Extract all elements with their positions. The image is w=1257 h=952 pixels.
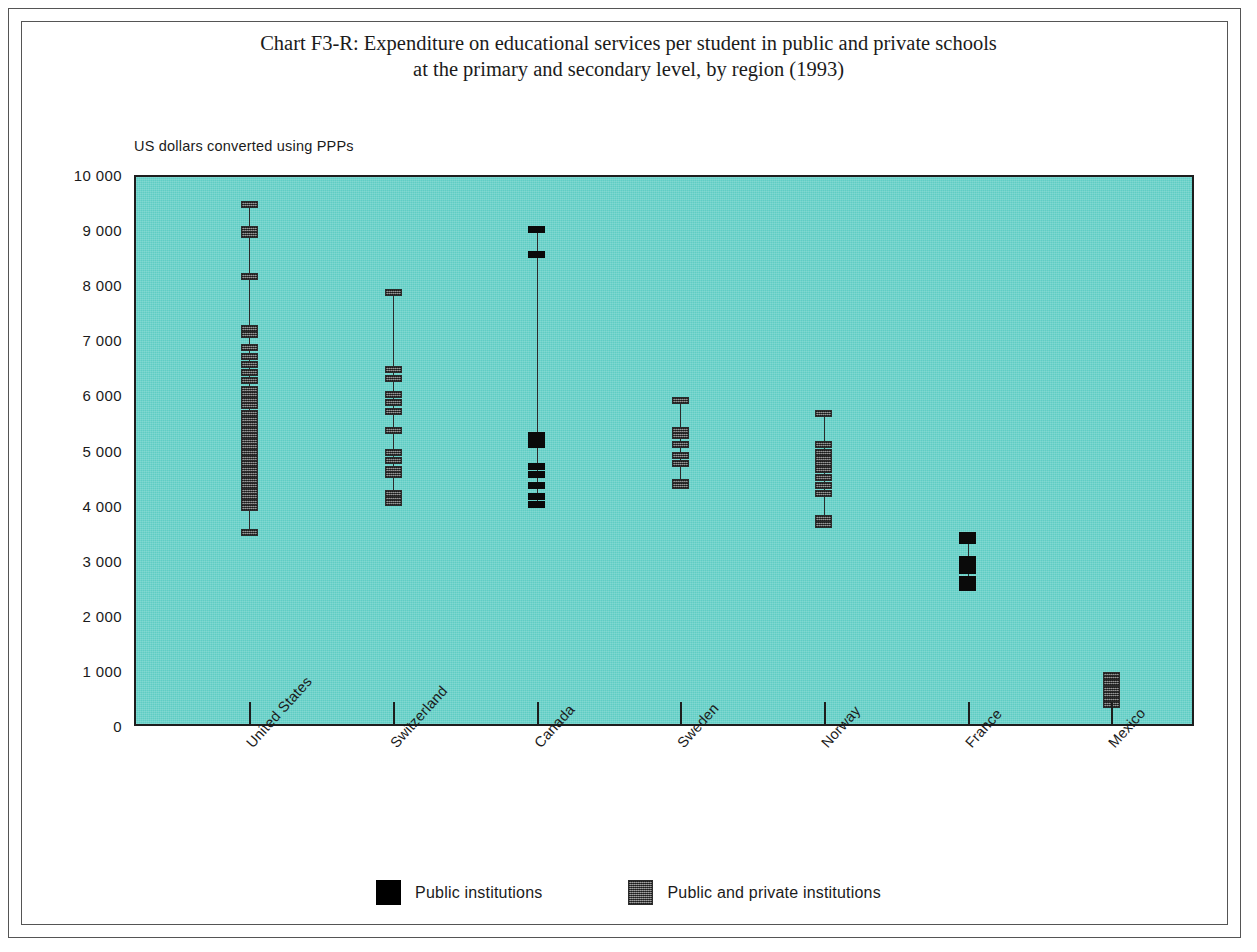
data-marker xyxy=(385,471,402,478)
legend-label-public: Public institutions xyxy=(415,884,542,902)
legend-swatch-mixed xyxy=(628,880,653,905)
data-marker xyxy=(241,344,258,351)
plot-area xyxy=(134,175,1194,726)
data-marker xyxy=(815,410,832,417)
data-marker xyxy=(385,449,402,456)
data-marker xyxy=(528,501,545,508)
data-marker xyxy=(815,490,832,497)
data-marker xyxy=(672,397,689,404)
data-marker xyxy=(815,521,832,528)
data-marker xyxy=(385,457,402,464)
data-marker xyxy=(241,377,258,384)
x-tick-mark xyxy=(968,702,970,724)
y-tick-label: 9 000 xyxy=(4,222,122,239)
y-tick-label: 10 000 xyxy=(4,167,122,184)
data-marker xyxy=(241,369,258,376)
data-marker xyxy=(528,482,545,489)
data-marker xyxy=(241,504,258,511)
y-tick-label: 6 000 xyxy=(4,387,122,404)
data-marker xyxy=(385,408,402,415)
data-marker xyxy=(959,584,976,591)
data-marker xyxy=(528,251,545,258)
data-marker xyxy=(528,441,545,448)
data-marker xyxy=(385,427,402,434)
y-tick-label: 7 000 xyxy=(4,332,122,349)
legend-swatch-public xyxy=(376,880,401,905)
x-tick-mark xyxy=(249,702,251,724)
chart-legend: Public institutionsPublic and private in… xyxy=(0,880,1257,905)
legend-label-mixed: Public and private institutions xyxy=(667,884,880,902)
y-tick-label: 3 000 xyxy=(4,552,122,569)
data-marker xyxy=(959,537,976,544)
data-marker xyxy=(385,499,402,506)
data-marker xyxy=(528,226,545,233)
legend-item-public: Public institutions xyxy=(376,880,542,905)
data-marker xyxy=(528,493,545,500)
y-tick-label: 5 000 xyxy=(4,442,122,459)
legend-item-mixed: Public and private institutions xyxy=(628,880,880,905)
y-tick-label: 2 000 xyxy=(4,607,122,624)
data-marker xyxy=(385,399,402,406)
data-marker xyxy=(672,432,689,439)
y-tick-label: 0 xyxy=(4,718,122,735)
x-tick-mark xyxy=(824,702,826,724)
data-marker xyxy=(815,474,832,481)
data-marker xyxy=(241,331,258,338)
x-tick-mark xyxy=(537,702,539,724)
data-marker xyxy=(528,471,545,478)
data-marker xyxy=(241,231,258,238)
plot-background-texture xyxy=(136,177,1192,724)
data-marker xyxy=(385,375,402,382)
data-marker xyxy=(385,289,402,296)
data-marker xyxy=(241,402,258,409)
data-marker xyxy=(672,482,689,489)
chart-title: Chart F3-R: Expenditure on educational s… xyxy=(0,30,1257,82)
data-marker xyxy=(672,441,689,448)
data-marker xyxy=(959,567,976,574)
data-marker xyxy=(672,452,689,459)
data-marker xyxy=(241,201,258,208)
y-tick-label: 1 000 xyxy=(4,662,122,679)
x-tick-mark xyxy=(680,702,682,724)
data-marker xyxy=(241,273,258,280)
y-axis-unit-label: US dollars converted using PPPs xyxy=(134,138,354,154)
y-tick-label: 8 000 xyxy=(4,277,122,294)
data-marker xyxy=(528,463,545,470)
data-marker xyxy=(672,460,689,467)
data-marker xyxy=(815,441,832,448)
data-marker xyxy=(241,529,258,536)
x-tick-mark xyxy=(1111,702,1113,724)
data-marker xyxy=(815,482,832,489)
data-marker xyxy=(385,366,402,373)
y-tick-label: 4 000 xyxy=(4,497,122,514)
data-marker xyxy=(241,353,258,360)
data-marker xyxy=(815,466,832,473)
data-marker xyxy=(385,391,402,398)
data-marker xyxy=(241,361,258,368)
x-tick-mark xyxy=(393,702,395,724)
